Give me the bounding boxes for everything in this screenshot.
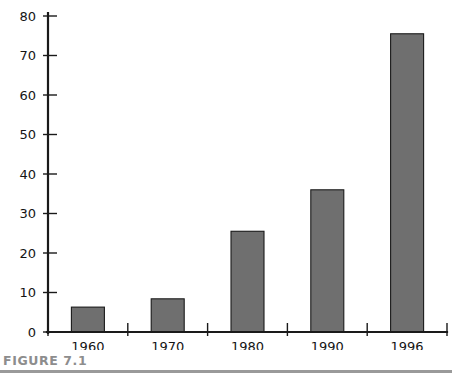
figure-container: 01020304050607080 19601970198019901996 F… [0,0,452,379]
y-axis-tick-label: 60 [19,88,36,103]
x-axis-tick-label: 1960 [71,339,104,350]
figure-caption-rule [0,370,452,373]
bar [231,231,264,332]
y-axis-tick-label: 70 [19,48,36,63]
x-axis-tick-label: 1970 [151,339,184,350]
x-axis-tick-label: 1980 [231,339,264,350]
chart-plot-area: 01020304050607080 19601970198019901996 [0,0,452,350]
y-axis-tick-label: 30 [19,206,36,221]
bar [151,299,184,332]
figure-caption-label: FIGURE 7.1 [0,353,452,368]
figure-caption-block: FIGURE 7.1 [0,353,452,373]
bar-chart-svg: 01020304050607080 19601970198019901996 [0,0,452,350]
x-axis-tick-label: 1990 [311,339,344,350]
bar [71,307,104,332]
bar [311,190,344,332]
y-axis-tick-label: 40 [19,167,36,182]
y-axis-tick-label: 80 [19,9,36,24]
y-axis-tick-label: 50 [19,127,36,142]
y-axis-ticks [43,16,57,332]
x-axis-tick-labels: 19601970198019901996 [71,339,423,350]
y-axis-tick-labels: 01020304050607080 [19,9,36,340]
x-axis-tick-label: 1996 [391,339,424,350]
bar [391,34,424,332]
y-axis-tick-label: 20 [19,246,36,261]
y-axis-tick-label: 0 [28,325,36,340]
y-axis-tick-label: 10 [19,285,36,300]
y-axis [43,13,57,333]
bars-group [71,34,423,332]
